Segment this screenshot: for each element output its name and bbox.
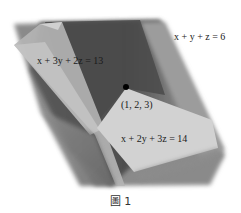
plane-1-equation-label: x + y + z = 6 <box>174 32 225 42</box>
three-planes-figure: x + y + z = 6 x + 3y + 2z = 13 (1, 2, 3)… <box>0 0 241 213</box>
intersection-point-marker <box>123 84 129 90</box>
intersection-point-label: (1, 2, 3) <box>121 100 153 110</box>
figure-caption: 圖 1 <box>0 192 241 208</box>
plane-2-equation-label: x + 3y + 2z = 13 <box>37 56 103 66</box>
plane-3-equation-label: x + 2y + 3z = 14 <box>121 134 187 144</box>
